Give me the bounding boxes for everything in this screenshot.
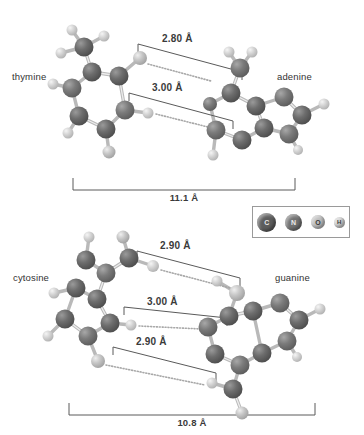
adenine-bonds [210, 52, 324, 155]
guanine-atoms [199, 276, 326, 420]
panel-cytosine-guanine: cytosine guanine 2.90 Å 3.00 Å 2.90 Å 10… [0, 215, 364, 435]
span-bracket-ta [73, 178, 295, 190]
molecule-label-adenine: adenine [277, 71, 312, 82]
hbond-distance-label-2: 3.00 Å [147, 296, 178, 307]
molecule-label-guanine: guanine [275, 272, 310, 283]
cytosine-atoms [43, 231, 160, 369]
hydrogen-bond-1 [148, 64, 211, 81]
distance-bracket-3 [113, 347, 216, 381]
molecule-label-cytosine: cytosine [13, 272, 49, 283]
hydrogen-bond-3 [106, 365, 205, 385]
hbond-distance-label-2: 3.00 Å [152, 82, 183, 93]
span-distance-label-cg: 10.8 Å [141, 417, 243, 428]
panel-thymine-adenine: thymine adenine 2.80 Å 3.00 Å 11.1 Å [0, 0, 364, 215]
base-pair-figure: thymine adenine 2.80 Å 3.00 Å 11.1 Å C N… [0, 0, 364, 435]
span-distance-label-ta: 11.1 Å [133, 192, 235, 203]
hbond-distance-label-1: 2.80 Å [162, 33, 193, 44]
hbond-distance-label-1: 2.90 Å [160, 240, 191, 251]
hbond-distance-label-3: 2.90 Å [136, 336, 167, 347]
hydrogen-bond-2 [139, 326, 201, 329]
molecule-label-thymine: thymine [12, 71, 46, 82]
span-bracket-cg [69, 403, 315, 415]
